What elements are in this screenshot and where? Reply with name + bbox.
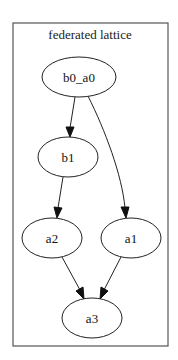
node-a2: a2 bbox=[22, 218, 82, 258]
node-a1: a1 bbox=[101, 218, 161, 258]
node-label: a3 bbox=[86, 311, 98, 326]
lattice-diagram: federated lattice b0_a0 b1 a2 a1 a3 bbox=[0, 0, 178, 360]
node-label: a2 bbox=[46, 231, 58, 246]
node-b1: b1 bbox=[38, 137, 98, 177]
node-a3: a3 bbox=[62, 298, 122, 338]
node-label: b1 bbox=[62, 150, 75, 165]
cluster-title: federated lattice bbox=[48, 27, 132, 42]
node-b0_a0: b0_a0 bbox=[42, 57, 116, 97]
node-label: a1 bbox=[125, 231, 137, 246]
node-label: b0_a0 bbox=[63, 70, 95, 85]
